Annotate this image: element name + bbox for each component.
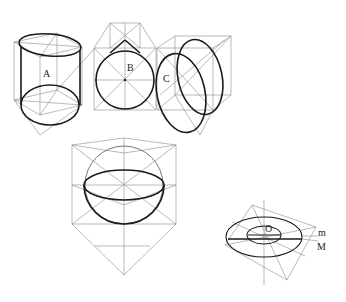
label-a: A — [43, 68, 51, 79]
label-b: B — [127, 62, 134, 73]
label-c: C — [163, 73, 170, 84]
figure-ring: O m M — [225, 200, 326, 285]
figure-a-cylinder: A — [14, 31, 95, 135]
label-M: M — [317, 241, 326, 252]
figure-b-sphere: B — [94, 23, 156, 110]
figure-c-tilted-cylinder: C — [149, 35, 231, 137]
label-m: m — [318, 227, 326, 238]
figure-hemisphere — [72, 138, 176, 275]
construction-diagram: A B C — [0, 0, 346, 302]
label-o: O — [265, 223, 272, 234]
